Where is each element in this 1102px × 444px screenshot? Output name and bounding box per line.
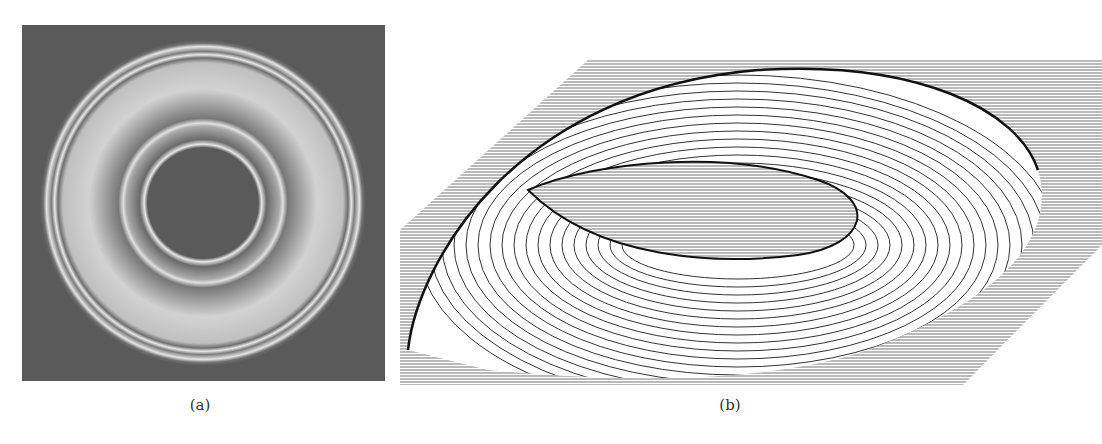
fringe-pattern-image (22, 25, 385, 381)
caption-b: (b) (700, 396, 760, 414)
torus-surface-plot (398, 30, 1102, 386)
caption-a: (a) (170, 396, 230, 414)
fringe-pattern-panel (22, 25, 385, 381)
torus-surface-panel (398, 30, 1102, 386)
